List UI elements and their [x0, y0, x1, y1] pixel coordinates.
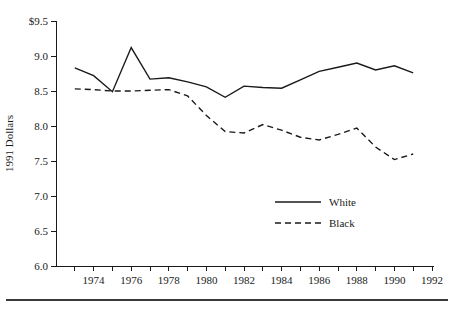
y-tick-label: 7.5	[34, 155, 48, 167]
chart-legend: WhiteBlack	[275, 196, 356, 229]
y-tick-label: 6.0	[34, 260, 48, 272]
x-axis: 1974197619781980198219841986198819901992	[56, 266, 443, 286]
legend-label-white: White	[329, 196, 356, 208]
x-tick-label: 1982	[233, 274, 255, 286]
y-tick-label: 8.0	[34, 120, 48, 132]
series-line-white	[75, 48, 413, 98]
x-tick-label: 1988	[346, 274, 369, 286]
y-tick-label: $9.5	[29, 15, 49, 27]
y-axis-title: 1991 Dollars	[3, 115, 15, 172]
x-tick-label: 1990	[383, 274, 406, 286]
x-tick-label: 1980	[195, 274, 218, 286]
line-chart: 6.06.57.07.58.08.59.0$9.51991 Dollars 19…	[0, 0, 454, 309]
y-tick-label: 7.0	[34, 190, 48, 202]
legend-label-black: Black	[329, 217, 355, 229]
y-axis: 6.06.57.07.58.08.59.0$9.51991 Dollars	[3, 15, 56, 272]
x-tick-label: 1978	[158, 274, 181, 286]
x-tick-label: 1976	[120, 274, 143, 286]
y-tick-label: 9.0	[34, 50, 48, 62]
data-series-group	[75, 48, 413, 160]
x-tick-label: 1984	[271, 274, 294, 286]
chart-figure: 6.06.57.07.58.08.59.0$9.51991 Dollars 19…	[0, 0, 454, 309]
y-tick-label: 8.5	[34, 85, 48, 97]
x-tick-label: 1986	[308, 274, 331, 286]
series-line-black	[75, 89, 413, 160]
x-tick-label: 1974	[83, 274, 106, 286]
y-tick-label: 6.5	[34, 225, 48, 237]
x-tick-label: 1992	[421, 274, 443, 286]
